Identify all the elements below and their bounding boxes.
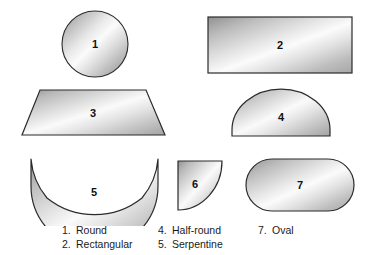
legend-item-rectangular: 2. Rectangular (62, 238, 158, 251)
shape-canvas: 1 2 3 4 5 (0, 0, 365, 226)
legend-item-oval-number: 7. (258, 224, 272, 237)
shape-6-number: 6 (192, 178, 198, 190)
legend-column-2: 4. Half-round 5. Serpentine (158, 224, 258, 255)
shape-2-number: 2 (277, 39, 283, 51)
legend-item-rectangular-label: Rectangular (76, 238, 133, 251)
legend: 1. Round 2. Rectangular 4. Half-round 5.… (0, 224, 365, 255)
legend-item-serpentine-label: Serpentine (172, 238, 223, 251)
legend-item-serpentine-number: 5. (158, 238, 172, 251)
shape-4-number: 4 (278, 111, 285, 123)
legend-item-oval: 7. Oval (258, 224, 338, 237)
shapes-svg: 1 2 3 4 5 (0, 0, 365, 226)
legend-item-round-number: 1. (62, 224, 76, 237)
shape-6-quarter: 6 (178, 161, 222, 210)
shape-1-number: 1 (92, 38, 98, 50)
legend-item-oval-label: Oval (272, 224, 294, 237)
legend-column-3: 7. Oval (258, 224, 338, 255)
legend-item-rectangular-number: 2. (62, 238, 76, 251)
shape-7-number: 7 (297, 179, 303, 191)
legend-item-round: 1. Round (62, 224, 158, 237)
shape-5-serpentine: 5 (31, 159, 158, 226)
legend-item-half-round: 4. Half-round (158, 224, 258, 237)
legend-item-half-round-number: 4. (158, 224, 172, 237)
legend-item-serpentine: 5. Serpentine (158, 238, 258, 251)
shape-3-number: 3 (90, 107, 96, 119)
shape-7-oval: 7 (246, 159, 354, 211)
shape-5-number: 5 (91, 186, 97, 198)
legend-item-round-label: Round (76, 224, 107, 237)
shape-chart-figure: 1 2 3 4 5 (0, 0, 365, 255)
legend-item-half-round-label: Half-round (172, 224, 221, 237)
shape-3-trapezoid: 3 (22, 90, 165, 135)
shape-4-half-round: 4 (232, 89, 330, 136)
quarter-outline (178, 161, 222, 210)
legend-column-1: 1. Round 2. Rectangular (62, 224, 158, 255)
shape-1-round: 1 (62, 11, 128, 77)
shape-2-rectangular: 2 (208, 17, 352, 73)
